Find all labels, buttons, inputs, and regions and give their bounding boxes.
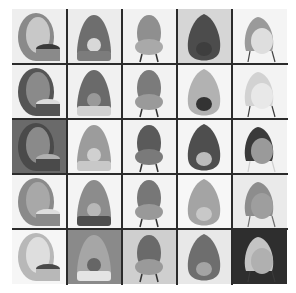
- chair-image: [122, 64, 177, 119]
- grid-cell-r5-c5: [232, 229, 287, 284]
- grid-cell-r1-c4: [177, 9, 232, 64]
- grid-cell-r3-c2: [67, 119, 122, 174]
- grid-cell-r1-c2: [67, 9, 122, 64]
- chair-image: [12, 119, 67, 174]
- chair-image: [12, 64, 67, 119]
- grid-cell-r5-c2: [67, 229, 122, 284]
- chair-image: [122, 174, 177, 229]
- chair-image: [232, 229, 287, 284]
- grid-cell-r4-c2: [67, 174, 122, 229]
- image-grid: [12, 9, 288, 285]
- grid-divider-vertical: [121, 9, 123, 285]
- chair-image: [177, 64, 232, 119]
- chair-image: [67, 9, 122, 64]
- grid-cell-r3-c3: [122, 119, 177, 174]
- chair-image: [12, 229, 67, 284]
- grid-cell-r2-c4: [177, 64, 232, 119]
- chair-image: [177, 9, 232, 64]
- grid-cell-r5-c4: [177, 229, 232, 284]
- chair-image: [177, 174, 232, 229]
- grid-cell-r2-c1: [12, 64, 67, 119]
- chair-image: [122, 9, 177, 64]
- grid-cell-r4-c4: [177, 174, 232, 229]
- chair-image: [67, 174, 122, 229]
- grid-cell-r4-c1: [12, 174, 67, 229]
- chair-image: [67, 229, 122, 284]
- grid-divider-horizontal: [12, 118, 288, 120]
- chair-image: [67, 119, 122, 174]
- grid-cell-r1-c5: [232, 9, 287, 64]
- grid-divider-horizontal: [12, 228, 288, 230]
- grid-cell-r2-c3: [122, 64, 177, 119]
- chair-image: [12, 174, 67, 229]
- chair-image: [232, 9, 287, 64]
- chair-image: [122, 229, 177, 284]
- grid-divider-vertical: [176, 9, 178, 285]
- grid-cell-r3-c1: [12, 119, 67, 174]
- grid-cell-r1-c1: [12, 9, 67, 64]
- grid-cell-r2-c5: [232, 64, 287, 119]
- chair-image: [122, 119, 177, 174]
- grid-divider-vertical: [231, 9, 233, 285]
- grid-cell-r4-c3: [122, 174, 177, 229]
- grid-cell-r3-c4: [177, 119, 232, 174]
- grid-cell-r5-c3: [122, 229, 177, 284]
- grid-divider-vertical: [66, 9, 68, 285]
- chair-image: [232, 64, 287, 119]
- chair-image: [232, 174, 287, 229]
- chair-image: [232, 119, 287, 174]
- grid-cell-r4-c5: [232, 174, 287, 229]
- chair-image: [177, 119, 232, 174]
- grid-divider-horizontal: [12, 63, 288, 65]
- grid-divider-horizontal: [12, 173, 288, 175]
- chair-image: [67, 64, 122, 119]
- grid-cell-r2-c2: [67, 64, 122, 119]
- chair-image: [177, 229, 232, 284]
- grid-cell-r1-c3: [122, 9, 177, 64]
- grid-cell-r5-c1: [12, 229, 67, 284]
- chair-image: [12, 9, 67, 64]
- grid-cell-r3-c5: [232, 119, 287, 174]
